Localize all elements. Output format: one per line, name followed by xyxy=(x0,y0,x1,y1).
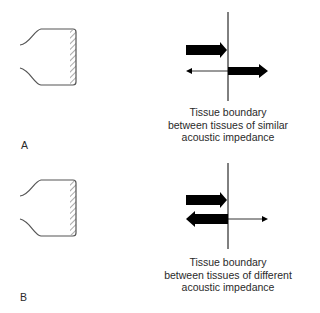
reflected-arrow-thick xyxy=(186,211,228,227)
transducer-b xyxy=(20,180,76,236)
transducer-a xyxy=(20,29,76,85)
caption-a: Tissue boundary between tissues of simil… xyxy=(158,106,298,144)
caption-line: acoustic impedance xyxy=(158,281,298,294)
boundary-a xyxy=(186,12,268,101)
incident-arrow xyxy=(186,192,227,208)
panel-label-a: A xyxy=(21,139,28,151)
caption-line: between tissues of different xyxy=(158,269,298,282)
transducer-face-hatch xyxy=(70,30,76,84)
boundary-b xyxy=(186,163,268,249)
caption-b: Tissue boundary between tissues of diffe… xyxy=(158,256,298,294)
transducer-face-hatch xyxy=(70,181,76,235)
caption-line: Tissue boundary xyxy=(158,256,298,269)
caption-line: between tissues of similar xyxy=(158,119,298,132)
incident-arrow xyxy=(186,42,227,58)
panel-label-b: B xyxy=(20,291,27,303)
caption-line: acoustic impedance xyxy=(158,131,298,144)
caption-line: Tissue boundary xyxy=(158,106,298,119)
transmitted-arrow-thick xyxy=(228,64,268,78)
